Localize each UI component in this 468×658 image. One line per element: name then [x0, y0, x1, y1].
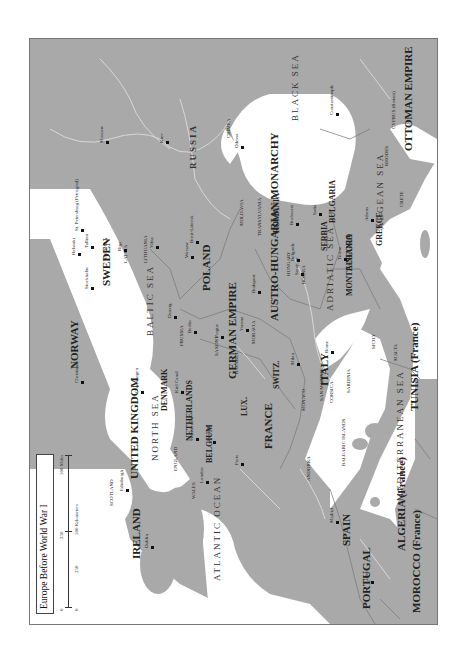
city-dot-icon [124, 249, 127, 252]
city-dot-icon [141, 391, 144, 394]
country-label: SWITZ. [273, 361, 281, 389]
city-dot-icon [194, 331, 197, 334]
city-label: Vilna [149, 237, 154, 248]
city-label: Moscow [99, 126, 104, 143]
city-label: Christiania [74, 361, 79, 383]
country-label: CYPRUS (Britain) [391, 91, 396, 129]
country-label: TRANSYLVANIA [257, 198, 262, 236]
city-dot-icon [241, 463, 244, 466]
city-dot-icon [344, 258, 347, 261]
sea-label: MEDITERRANEAN SEA [396, 370, 405, 501]
country-label: OTTOMAN EMPIRE [403, 46, 414, 151]
country-label: CRETE [399, 191, 404, 207]
city-dot-icon [296, 223, 299, 226]
country-label: CRIMEA [226, 119, 231, 138]
city-label: London [199, 467, 204, 483]
country-label: MONACO [301, 389, 306, 411]
city-label: Brest-Litovsk [189, 216, 194, 244]
sea-label: NORTH SEA [151, 393, 160, 461]
country-label: SAN MARINO [319, 369, 324, 401]
scale-mi-250: 250 [59, 532, 64, 540]
sea-label: BLACK SEA [291, 53, 300, 121]
city-dot-icon [156, 246, 159, 249]
sea-label: AEGEAN SEA [376, 153, 385, 229]
city-dot-icon [258, 291, 261, 294]
city-label: Milan [290, 353, 295, 365]
city-dot-icon [81, 229, 84, 232]
country-label: SPAIN [341, 514, 352, 546]
city-label: Madrid [329, 508, 334, 523]
city-label: Tirana [337, 247, 342, 260]
city-dot-icon [126, 489, 129, 492]
city-label: Danzig [167, 304, 172, 318]
country-label: IRELAND [131, 508, 142, 559]
country-label: MOLDAVIA [239, 199, 244, 226]
city-dot-icon [81, 381, 84, 384]
city-label: Sofia [312, 204, 317, 215]
city-label: Edinburgh [119, 470, 124, 491]
country-label: PRUSSIA [179, 325, 184, 346]
city-label: Warsaw [184, 242, 189, 258]
city-dot-icon [206, 481, 209, 484]
city-dot-icon [371, 219, 374, 222]
city-label: Vienna [239, 317, 244, 331]
country-label: ANDORRA [306, 456, 311, 481]
country-label: LUX. [241, 397, 249, 416]
country-label: MOROCCO (France) [411, 510, 422, 613]
country-label: SAXONY [214, 335, 219, 356]
country-label: CORSICA [329, 381, 334, 403]
city-dot-icon [196, 241, 199, 244]
city-label: Paris [234, 455, 239, 465]
country-label: MALTA [393, 344, 398, 361]
scale-mi-0: 0 [59, 609, 64, 612]
city-dot-icon [166, 141, 169, 144]
country-label: BULGARIA [329, 180, 337, 223]
city-dot-icon [191, 256, 194, 259]
city-label: Dublin [144, 534, 149, 548]
city-dot-icon [174, 316, 177, 319]
scale-tick [65, 531, 72, 532]
city-dot-icon [336, 113, 339, 116]
country-label: WALES [191, 482, 196, 499]
city-dot-icon [371, 581, 374, 584]
city-dot-icon [241, 146, 244, 149]
city-dot-icon [246, 329, 249, 332]
city-label: Berlin [187, 321, 192, 334]
sea-label: ADRIATIC SEA [326, 226, 335, 311]
city-label: Sarajevo [294, 258, 299, 276]
city-label: Lisbon [364, 569, 369, 583]
scale-bar: 0 250 500 Miles 0 250 500 Kilometers [58, 455, 88, 615]
country-label: LITHUANIA [143, 236, 148, 264]
city-dot-icon [221, 336, 224, 339]
city-dot-icon [336, 521, 339, 524]
city-label: Kiel Canal [174, 371, 179, 393]
country-label: POLAND [201, 245, 212, 291]
city-label: St. Petersburg (Petrograd) [74, 179, 79, 231]
city-label: Tallinn [84, 234, 89, 248]
city-dot-icon [78, 253, 81, 256]
map-title-box: Europe Before World War I [36, 454, 54, 614]
map-frame: RUSSIAOTTOMAN EMPIREGERMAN EMPIREAUSTRO-… [29, 38, 438, 625]
city-dot-icon [297, 363, 300, 366]
city-dot-icon [301, 273, 304, 276]
country-label: ESTONIA [103, 238, 108, 259]
city-dot-icon [196, 438, 199, 441]
country-label: TUNISIA (France) [409, 323, 420, 411]
country-label: SCOTLAND [109, 479, 114, 506]
city-dot-icon [319, 213, 322, 216]
scale-mi-500: 500 Miles [59, 455, 64, 475]
country-label: ENGLAND [173, 447, 178, 471]
scale-tick [65, 607, 72, 608]
country-label: MONTE-NEGRO [346, 234, 354, 296]
city-dot-icon [91, 246, 94, 249]
city-label: Odessa [234, 134, 239, 148]
country-label: MORAVIA [251, 321, 256, 344]
city-label: Constantinople [329, 85, 334, 115]
city-dot-icon [213, 441, 216, 444]
country-label: BAVARIA [234, 353, 239, 375]
city-label: Athens [364, 207, 369, 221]
city-dot-icon [151, 546, 154, 549]
sea-label: BALTIC SEA [146, 265, 155, 336]
city-label: Riga [117, 242, 122, 251]
city-label: Amsterdam [189, 417, 194, 440]
